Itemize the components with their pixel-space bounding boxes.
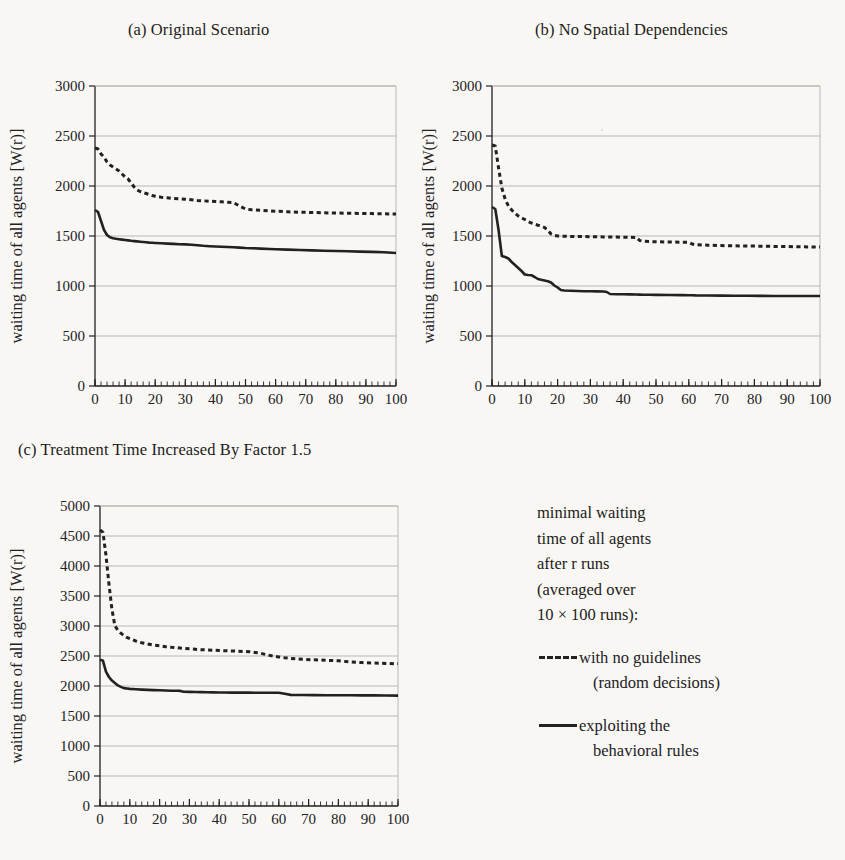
svg-text:500: 500 [460,328,483,344]
y-axis-label: waiting time of all agents [W(r)] [7,129,26,344]
x-axis-label: runs [r] [631,417,680,420]
panel-b-title: (b) No Spatial Dependencies [535,20,728,40]
svg-text:50: 50 [649,391,664,407]
chart-panel-a: (a) Original Scenario 010203040506070809… [0,20,420,420]
svg-text:1500: 1500 [452,228,482,244]
svg-text:500: 500 [63,328,86,344]
svg-text:40: 40 [616,391,631,407]
legend-description-line: (averaged over [537,577,837,603]
legend-label-line: (random decisions) [579,670,720,696]
panel-c-plot: 0102030405060708090100050010001500200025… [0,462,430,840]
y-axis-label: waiting time of all agents [W(r)] [7,549,26,764]
svg-text:1000: 1000 [60,738,90,754]
svg-text:70: 70 [301,811,316,827]
svg-text:80: 80 [328,391,343,407]
svg-text:90: 90 [780,391,795,407]
svg-text:100: 100 [809,391,832,407]
legend-entry-dashed-label: with no guidelines (random decisions) [579,645,720,696]
svg-text:20: 20 [148,391,163,407]
legend-description-line: 10 × 100 runs): [537,602,837,628]
legend-label-line: exploiting the [579,713,699,739]
svg-text:500: 500 [68,768,91,784]
panel-a-plot: 0102030405060708090100050010001500200025… [0,42,420,420]
svg-text:50: 50 [238,391,253,407]
svg-text:50: 50 [242,811,257,827]
svg-text:0: 0 [78,378,86,394]
svg-text:100: 100 [387,811,410,827]
svg-text:20: 20 [550,391,565,407]
legend-description: minimal waiting time of all agents after… [537,500,837,628]
svg-text:0: 0 [488,391,496,407]
svg-text:5000: 5000 [60,498,90,514]
svg-text:2000: 2000 [452,178,482,194]
svg-text:10: 10 [517,391,532,407]
svg-text:3500: 3500 [60,588,90,604]
legend-entry-solid-label: exploiting the behavioral rules [579,713,699,764]
panel-b-plot: 0102030405060708090100050010001500200025… [420,42,845,420]
legend-label-line: with no guidelines [579,645,720,671]
svg-text:80: 80 [331,811,346,827]
svg-text:60: 60 [681,391,696,407]
dashed-line-swatch-icon [537,645,579,670]
legend-entry-dashed: with no guidelines (random decisions) [537,645,837,696]
figure-page: . . (a) Original Scenario 01020304050607… [0,0,845,860]
svg-text:60: 60 [268,391,283,407]
svg-text:2500: 2500 [452,128,482,144]
legend-description-line: minimal waiting [537,500,837,526]
svg-text:40: 40 [212,811,227,827]
figure-legend: minimal waiting time of all agents after… [537,500,837,764]
svg-text:0: 0 [83,798,91,814]
svg-text:30: 30 [583,391,598,407]
x-axis-label: runs [r] [224,837,273,840]
svg-text:90: 90 [361,811,376,827]
panel-c-title: (c) Treatment Time Increased By Factor 1… [18,440,311,460]
svg-text:3000: 3000 [55,78,85,94]
svg-text:4000: 4000 [60,558,90,574]
svg-text:1500: 1500 [60,708,90,724]
svg-text:1500: 1500 [55,228,85,244]
panel-a-title: (a) Original Scenario [128,20,269,40]
svg-text:30: 30 [182,811,197,827]
y-axis-label: waiting time of all agents [W(r)] [420,129,438,344]
svg-text:20: 20 [152,811,167,827]
svg-text:40: 40 [208,391,223,407]
svg-text:2500: 2500 [55,128,85,144]
svg-text:70: 70 [714,391,729,407]
svg-text:2000: 2000 [55,178,85,194]
svg-text:10: 10 [118,391,133,407]
solid-line-swatch-icon [537,713,579,738]
svg-text:0: 0 [475,378,483,394]
svg-text:60: 60 [271,811,286,827]
svg-text:100: 100 [385,391,408,407]
svg-text:80: 80 [747,391,762,407]
svg-text:70: 70 [298,391,313,407]
svg-text:3000: 3000 [452,78,482,94]
chart-panel-b: (b) No Spatial Dependencies 010203040506… [420,20,845,420]
x-axis-label: runs [r] [221,417,270,420]
svg-text:0: 0 [91,391,99,407]
svg-text:1000: 1000 [452,278,482,294]
chart-panel-c: (c) Treatment Time Increased By Factor 1… [0,440,430,840]
legend-label-line: behavioral rules [579,738,699,764]
legend-description-line: time of all agents [537,526,837,552]
svg-text:2500: 2500 [60,648,90,664]
svg-text:0: 0 [96,811,104,827]
legend-description-line: after r runs [537,551,837,577]
svg-text:90: 90 [358,391,373,407]
svg-text:4500: 4500 [60,528,90,544]
svg-text:10: 10 [122,811,137,827]
svg-text:3000: 3000 [60,618,90,634]
svg-text:2000: 2000 [60,678,90,694]
svg-text:1000: 1000 [55,278,85,294]
svg-text:30: 30 [178,391,193,407]
legend-entry-solid: exploiting the behavioral rules [537,713,837,764]
